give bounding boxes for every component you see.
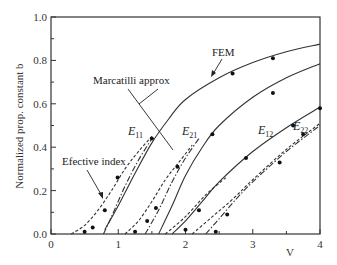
svg-text:Marcatilli approx: Marcatilli approx: [93, 74, 170, 86]
fem-marker-e11: [150, 137, 154, 141]
fem-marker-e22: [214, 230, 218, 234]
x-axis-title: V: [286, 246, 294, 258]
fem-marker-e21: [133, 230, 137, 234]
fem-marker-e22: [225, 212, 229, 216]
y-tick-label: 0.6: [33, 98, 47, 110]
x-tick-label: 2: [183, 238, 189, 250]
fem-marker-e12: [244, 156, 248, 160]
fem-marker-e11: [116, 176, 120, 180]
fem-marker-e11: [103, 208, 107, 212]
y-tick-label: 0.8: [33, 54, 47, 66]
curve-e12-effective-index: [165, 178, 226, 234]
fem-marker-e22: [278, 160, 282, 164]
curve-e22-fem: [206, 126, 320, 235]
y-tick-label: 1.0: [33, 11, 47, 23]
fem-marker-e12: [318, 106, 322, 110]
mode-label-e12: E12: [257, 123, 273, 139]
fem-marker-e11: [91, 225, 95, 229]
propagation-constant-chart: 0.00.20.40.60.81.0 01234 V Normalized pr…: [0, 0, 337, 265]
y-axis-title: Normalized prop. constant b: [13, 63, 25, 189]
curve-e22-effective-index: [192, 123, 320, 234]
y-tick-label: 0.4: [33, 141, 47, 153]
fem-marker-e21: [210, 132, 214, 136]
x-tick-label: 1: [116, 238, 122, 250]
svg-text:Efective index: Efective index: [62, 155, 126, 167]
fem-marker-e12: [184, 228, 188, 232]
y-axis: 0.00.20.40.60.81.0: [33, 11, 56, 240]
fem-marker-e21: [154, 206, 158, 210]
mode-label-e21: E21: [181, 124, 197, 140]
mode-label-e22: E22: [292, 119, 308, 135]
fem-marker-e12: [197, 208, 201, 212]
x-axis: 01234: [48, 229, 323, 250]
x-tick-label: 4: [317, 238, 323, 250]
fem-marker-e11: [231, 71, 235, 75]
fem-marker-e21: [145, 219, 149, 223]
x-tick-label: 0: [48, 238, 54, 250]
mode-label-e11: E11: [127, 124, 143, 140]
curve-e21-fem: [159, 64, 320, 234]
y-tick-label: 0.2: [33, 185, 47, 197]
annotation-marcatilli: Marcatilli approx: [93, 74, 173, 150]
fem-marker-e11: [83, 230, 87, 234]
curve-e21-effective-index: [125, 145, 192, 234]
curve-e21-marcatilli: [145, 139, 199, 234]
fem-marker-e21: [271, 91, 275, 95]
fem-marker-e11: [271, 56, 275, 60]
svg-text:FEM: FEM: [212, 46, 235, 58]
curve-e11-marcatilli: [103, 139, 151, 234]
fem-marker-e21: [175, 165, 179, 169]
x-tick-label: 3: [250, 238, 256, 250]
y-tick-label: 0.0: [33, 228, 47, 240]
